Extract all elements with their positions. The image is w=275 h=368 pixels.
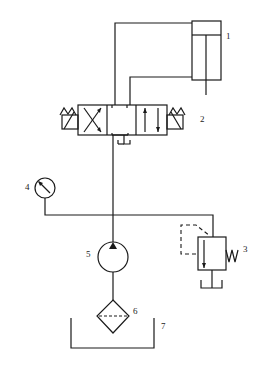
relief-valve xyxy=(181,225,238,288)
pressure-gauge xyxy=(35,178,213,237)
filter xyxy=(97,300,129,333)
cylinder xyxy=(192,21,221,95)
hydraulic-circuit-diagram: 1 2 xyxy=(0,0,275,368)
label-2: 2 xyxy=(200,114,205,124)
label-7: 7 xyxy=(161,321,166,331)
pump xyxy=(98,242,128,300)
label-3: 3 xyxy=(243,244,248,254)
cylinder-lines xyxy=(115,23,192,105)
directional-valve xyxy=(60,105,185,144)
label-6: 6 xyxy=(133,306,138,316)
label-5: 5 xyxy=(86,249,91,259)
label-4: 4 xyxy=(25,182,30,192)
label-1: 1 xyxy=(226,31,231,41)
